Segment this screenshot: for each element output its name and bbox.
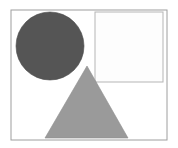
dark-circle — [16, 12, 84, 80]
shapes-figure — [0, 0, 178, 148]
figure-canvas — [0, 0, 178, 148]
white-square — [95, 12, 163, 82]
